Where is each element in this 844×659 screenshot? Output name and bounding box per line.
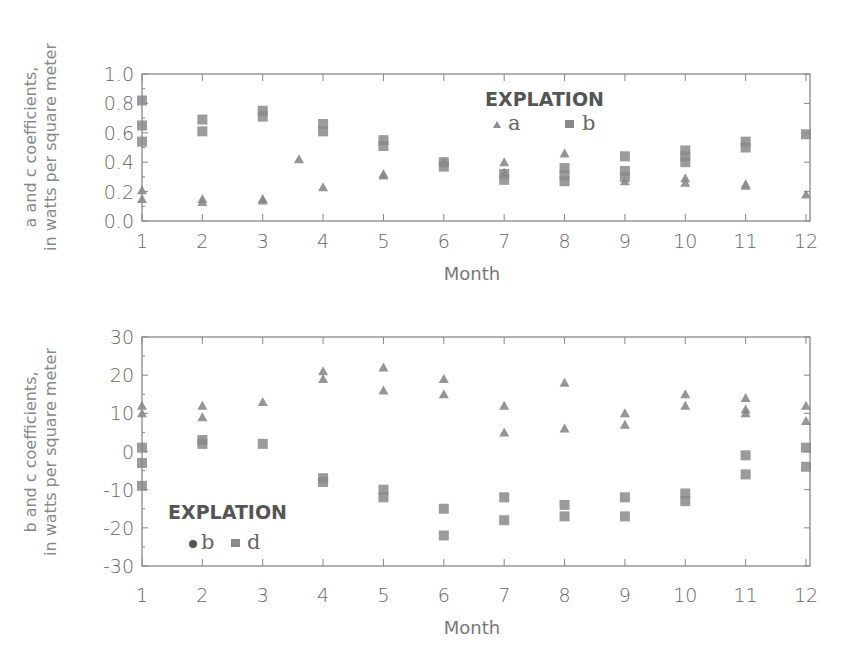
- chart-figure: 0.00.20.40.60.81.0123456789101112Montha …: [0, 0, 844, 659]
- scatter-panel-2: -30-20-100102030123456789101112Monthb an…: [21, 326, 818, 638]
- y-tick-label: 20: [110, 364, 134, 386]
- x-tick-label: 10: [673, 230, 697, 252]
- square-marker: [680, 157, 690, 167]
- x-tick-label: 6: [438, 230, 450, 252]
- square-marker: [499, 515, 509, 525]
- triangle-marker: [137, 194, 147, 203]
- square-marker: [439, 530, 449, 540]
- x-tick-label: 8: [558, 230, 570, 252]
- y-tick-label: 0.6: [104, 122, 134, 144]
- square-marker: [137, 120, 147, 130]
- y-tick-label: -10: [103, 479, 134, 501]
- scatter-panel-1: 0.00.20.40.60.81.0123456789101112Montha …: [21, 43, 818, 284]
- y-tick-label: 0.8: [104, 92, 134, 114]
- square-marker: [197, 439, 207, 449]
- triangle-marker: [499, 427, 509, 436]
- y-axis-title: in watts per square meter: [41, 43, 60, 251]
- square-marker: [318, 477, 328, 487]
- square-marker: [197, 115, 207, 125]
- triangle-marker: [680, 389, 690, 398]
- x-tick-label: 11: [734, 584, 758, 606]
- x-tick-label: 1: [136, 230, 148, 252]
- x-axis-title: Month: [444, 617, 500, 638]
- square-marker: [741, 143, 751, 153]
- square-marker: [137, 481, 147, 491]
- triangle-marker: [378, 170, 388, 179]
- legend: EXPLATIONab: [485, 88, 604, 135]
- triangle-marker: [378, 363, 388, 372]
- series-a: [137, 148, 811, 206]
- x-tick-label: 1: [136, 584, 148, 606]
- square-marker: [741, 469, 751, 479]
- legend: EXPLATIONbd: [168, 501, 287, 554]
- y-axis-title: b and c coefficients,: [21, 371, 40, 532]
- triangle-marker: [741, 181, 751, 190]
- triangle-marker: [560, 424, 570, 433]
- square-marker: [137, 137, 147, 147]
- x-tick-label: 8: [558, 584, 570, 606]
- y-tick-label: -30: [103, 555, 134, 577]
- y-tick-label: 1.0: [104, 63, 134, 85]
- triangle-marker: [294, 154, 304, 163]
- x-tick-label: 5: [377, 230, 389, 252]
- y-tick-label: 0.2: [104, 181, 134, 203]
- square-marker: [680, 496, 690, 506]
- square-marker: [378, 492, 388, 502]
- square-marker: [137, 458, 147, 468]
- x-tick-label: 4: [317, 584, 329, 606]
- triangle-marker: [620, 408, 630, 417]
- square-marker: [378, 141, 388, 151]
- square-marker: [560, 176, 570, 186]
- legend-entry-label: a: [508, 111, 521, 135]
- x-tick-label: 9: [619, 230, 631, 252]
- x-tick-label: 2: [196, 584, 208, 606]
- triangle-marker: [258, 195, 268, 204]
- legend-title: EXPLATION: [485, 88, 604, 110]
- legend-entry-label: b: [201, 530, 214, 554]
- square-marker: [620, 511, 630, 521]
- y-tick-label: 30: [110, 326, 134, 348]
- triangle-marker: [197, 412, 207, 421]
- x-tick-label: 2: [196, 230, 208, 252]
- square-marker: [258, 439, 268, 449]
- triangle-marker: [499, 401, 509, 410]
- legend-entry-label: b: [582, 111, 595, 135]
- y-axis-title: a and c coefficients,: [21, 67, 40, 228]
- triangle-marker: [680, 401, 690, 410]
- triangle-marker: [560, 148, 570, 157]
- legend-marker-icon: [565, 120, 574, 128]
- triangle-marker: [560, 378, 570, 387]
- x-tick-label: 12: [794, 230, 818, 252]
- x-tick-label: 6: [438, 584, 450, 606]
- series-b: [137, 363, 811, 437]
- y-tick-label: 0: [122, 441, 134, 463]
- square-marker: [560, 511, 570, 521]
- triangle-marker: [318, 182, 328, 191]
- y-tick-label: 10: [110, 402, 134, 424]
- square-marker: [560, 500, 570, 510]
- triangle-marker: [499, 157, 509, 166]
- x-tick-label: 7: [498, 230, 510, 252]
- x-tick-label: 4: [317, 230, 329, 252]
- square-marker: [801, 129, 811, 139]
- y-tick-label: 0.0: [104, 210, 134, 232]
- triangle-marker: [197, 401, 207, 410]
- plot-frame: [142, 337, 810, 566]
- legend-marker-icon: [231, 539, 240, 547]
- square-marker: [197, 126, 207, 136]
- x-tick-label: 11: [734, 230, 758, 252]
- triangle-marker: [439, 389, 449, 398]
- plot-frame: [142, 74, 810, 221]
- square-marker: [801, 462, 811, 472]
- square-marker: [801, 443, 811, 453]
- legend-marker-icon: [493, 121, 501, 128]
- square-marker: [741, 450, 751, 460]
- x-tick-label: 3: [257, 584, 269, 606]
- square-marker: [439, 162, 449, 172]
- series-b: [137, 95, 811, 186]
- square-marker: [499, 492, 509, 502]
- square-marker: [439, 504, 449, 514]
- x-tick-label: 9: [619, 584, 631, 606]
- y-tick-label: 0.4: [104, 151, 134, 173]
- x-tick-label: 12: [794, 584, 818, 606]
